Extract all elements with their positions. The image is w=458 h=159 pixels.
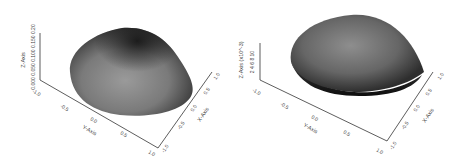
y-tick: -1.0 (252, 87, 263, 97)
x-tick: -1.0 (160, 143, 170, 154)
z-axis-ticks: 2 4 6 8 10 (249, 51, 255, 73)
left-plot-canvas: Z-Axis 0.000 0.050 0.100 0.150 0.20 -1.0… (0, 0, 229, 159)
y-tick: -1.0 (32, 88, 43, 98)
x-axis-label: X-Axis (421, 107, 435, 124)
left-surface-plot: Z-Axis 0.000 0.050 0.100 0.150 0.20 -1.0… (0, 0, 229, 159)
x-axis-label: X-Axis (196, 106, 210, 123)
x-tick: 0.0 (189, 103, 198, 112)
right-plot-canvas: Z-Axis (x10^-3) 2 4 6 8 10 -1.0 -0.5 0.0… (229, 0, 458, 159)
y-tick: 0.5 (120, 130, 129, 139)
z-axis-ticks: 0.000 0.050 0.100 0.150 0.20 (30, 24, 36, 90)
x-tick: 1.0 (212, 71, 221, 80)
x-tick: 0.5 (202, 86, 211, 95)
egg-surface (291, 15, 424, 92)
x-tick: -1.0 (388, 140, 398, 151)
x-tick: 0.0 (412, 103, 421, 112)
y-tick: 0.0 (311, 114, 320, 123)
x-tick: 0.5 (424, 87, 433, 96)
y-tick: -0.5 (280, 101, 291, 111)
y-axis-label: Y-Axis (82, 124, 99, 137)
x-tick: -0.5 (176, 120, 186, 131)
y-tick: 1.0 (376, 147, 385, 156)
y-axis-label: Y-Axis (303, 122, 320, 135)
dome-shadow (70, 28, 193, 116)
z-axis-label: Z-Axis (x10^-3) (238, 41, 244, 78)
right-surface-plot: Z-Axis (x10^-3) 2 4 6 8 10 -1.0 -0.5 0.0… (229, 0, 458, 159)
z-axis-label: Z-Axis (20, 52, 26, 68)
y-tick: -0.5 (60, 103, 71, 113)
y-tick: 1.0 (148, 149, 157, 158)
x-tick: -0.5 (400, 120, 410, 131)
x-tick: 1.0 (436, 71, 445, 80)
y-tick: 0.5 (343, 129, 352, 138)
y-tick: 0.0 (90, 116, 99, 125)
